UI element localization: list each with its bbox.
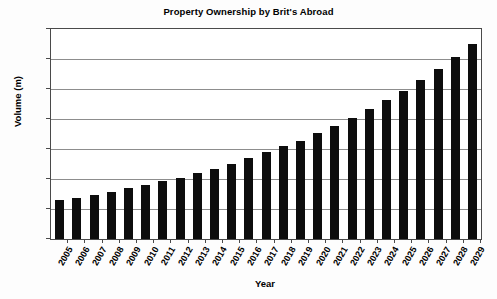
y-tick-mark <box>46 208 50 209</box>
x-tick-mark <box>411 239 412 243</box>
y-tick-mark <box>46 178 50 179</box>
y-tick-mark <box>46 58 50 59</box>
x-tick-label: 2026 <box>417 245 436 267</box>
x-tick-mark <box>377 239 378 243</box>
x-tick-label: 2016 <box>245 245 264 267</box>
bar[interactable] <box>227 164 236 239</box>
x-tick-label: 2024 <box>382 245 401 267</box>
bar[interactable] <box>382 100 391 240</box>
x-tick-label: 2023 <box>365 245 384 267</box>
x-tick-mark <box>325 239 326 243</box>
x-tick-label: 2012 <box>176 245 195 267</box>
x-tick-label: 2018 <box>279 245 298 267</box>
x-tick-mark <box>463 239 464 243</box>
y-tick-mark <box>46 238 50 239</box>
x-tick-label: 2011 <box>159 245 177 267</box>
bar[interactable] <box>244 158 253 239</box>
x-tick-mark <box>205 239 206 243</box>
x-tick-label: 2017 <box>262 245 281 267</box>
x-tick-mark <box>170 239 171 243</box>
bar[interactable] <box>90 195 99 239</box>
bar[interactable] <box>55 200 64 239</box>
x-tick-label: 2021 <box>331 245 350 267</box>
x-axis-title: Year <box>50 278 480 289</box>
x-tick-label: 2008 <box>107 245 126 267</box>
y-tick-mark <box>46 118 50 119</box>
x-tick-mark <box>119 239 120 243</box>
x-tick-label: 2007 <box>90 245 109 267</box>
x-tick-label: 2009 <box>124 245 143 267</box>
y-tick-mark <box>46 88 50 89</box>
y-axis-title: Volume (m) <box>12 47 23 157</box>
x-tick-mark <box>188 239 189 243</box>
gridline <box>51 59 481 60</box>
x-tick-mark <box>84 239 85 243</box>
bar[interactable] <box>330 126 339 239</box>
x-tick-label: 2020 <box>314 245 333 267</box>
bar[interactable] <box>107 192 116 239</box>
x-tick-mark <box>239 239 240 243</box>
chart-canvas: Property Ownership by Brit's Abroad Volu… <box>0 0 497 299</box>
x-tick-label: 2019 <box>296 245 315 267</box>
y-tick-mark <box>46 28 50 29</box>
x-tick-label: 2022 <box>348 245 367 267</box>
x-tick-mark <box>394 239 395 243</box>
x-tick-label: 2029 <box>468 245 487 267</box>
x-tick-label: 2025 <box>400 245 419 267</box>
x-tick-mark <box>360 239 361 243</box>
x-tick-label: 2028 <box>451 245 470 267</box>
x-tick-mark <box>256 239 257 243</box>
x-tick-label: 2005 <box>56 245 75 267</box>
bar[interactable] <box>365 109 374 239</box>
x-tick-mark <box>291 239 292 243</box>
bar[interactable] <box>434 69 443 239</box>
bar[interactable] <box>313 133 322 240</box>
x-tick-mark <box>153 239 154 243</box>
chart-title: Property Ownership by Brit's Abroad <box>0 6 497 17</box>
bar[interactable] <box>416 80 425 239</box>
bar[interactable] <box>176 178 185 240</box>
bar[interactable] <box>348 118 357 240</box>
x-tick-mark <box>274 239 275 243</box>
bar[interactable] <box>451 57 460 239</box>
x-tick-mark <box>67 239 68 243</box>
bar[interactable] <box>124 188 133 239</box>
x-tick-mark <box>102 239 103 243</box>
x-tick-label: 2015 <box>228 245 247 267</box>
bar[interactable] <box>262 152 271 239</box>
x-tick-mark <box>428 239 429 243</box>
bar[interactable] <box>72 198 81 239</box>
bar[interactable] <box>468 44 477 239</box>
bar[interactable] <box>210 169 219 240</box>
bar[interactable] <box>193 173 202 239</box>
bar[interactable] <box>158 181 167 239</box>
x-tick-mark <box>308 239 309 243</box>
x-tick-label: 2010 <box>142 245 161 267</box>
x-tick-label: 2013 <box>193 245 212 267</box>
x-tick-mark <box>342 239 343 243</box>
x-tick-label: 2014 <box>210 245 229 267</box>
x-tick-mark <box>136 239 137 243</box>
x-tick-mark <box>446 239 447 243</box>
bar[interactable] <box>279 146 288 239</box>
y-tick-mark <box>46 148 50 149</box>
x-tick-mark <box>222 239 223 243</box>
x-tick-label: 2027 <box>434 245 453 267</box>
bar[interactable] <box>399 91 408 240</box>
bar[interactable] <box>296 141 305 239</box>
bar[interactable] <box>141 185 150 239</box>
plot-area <box>50 28 482 240</box>
x-tick-mark <box>480 239 481 243</box>
x-tick-label: 2006 <box>73 245 92 267</box>
